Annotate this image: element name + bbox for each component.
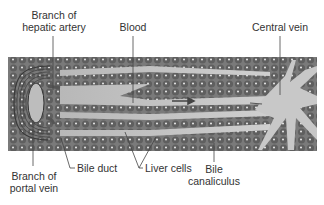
label-blood: Blood <box>117 21 149 33</box>
label-bile-canaliculus: Bile canaliculus <box>186 163 242 187</box>
hepatic-artery-shape <box>48 86 60 88</box>
label-liver-cells: Liver cells <box>145 162 192 174</box>
label-bile-duct: Bile duct <box>77 162 117 174</box>
portal-vein-lumen <box>28 83 44 123</box>
label-central-vein: Central vein <box>250 21 310 33</box>
label-portal-vein: Branch of portal vein <box>8 170 60 194</box>
label-hepatic-artery: Branch of hepatic artery <box>22 9 86 33</box>
